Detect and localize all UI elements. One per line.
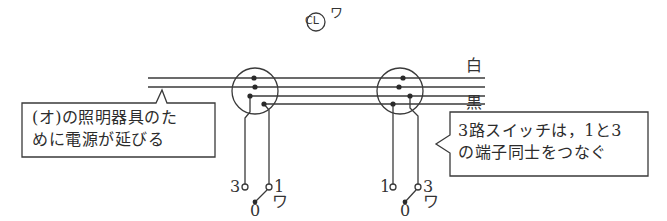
right-switch-common-0: 0 bbox=[400, 203, 410, 219]
right-callout: 3路スイッチは，1と3 の端子同士をつなぐ bbox=[458, 120, 622, 164]
left-callout-line2: めに電源が延びる bbox=[32, 129, 177, 151]
right-callout-line1: 3路スイッチは，1と3 bbox=[458, 120, 622, 142]
right-junction-box bbox=[377, 68, 423, 114]
white-wire-label: 白 bbox=[466, 58, 482, 74]
black-wire-label: 黒 bbox=[466, 95, 482, 111]
left-switch-common-0: 0 bbox=[250, 203, 260, 219]
fixture-symbol-text: CL bbox=[305, 15, 319, 26]
right-callout-line2: の端子同士をつなぐ bbox=[458, 142, 622, 164]
left-callout: (オ)の照明器具のた めに電源が延びる bbox=[32, 107, 177, 151]
left-switch-label: ワ bbox=[272, 194, 288, 210]
left-callout-line1: (オ)の照明器具のた bbox=[32, 107, 177, 129]
fixture-label: ワ bbox=[330, 6, 343, 19]
left-junction-box bbox=[232, 68, 278, 114]
right-switch-terminal-1: 1 bbox=[380, 179, 390, 195]
right-switch-label: ワ bbox=[423, 194, 439, 210]
left-switch-terminal-3: 3 bbox=[230, 179, 240, 195]
